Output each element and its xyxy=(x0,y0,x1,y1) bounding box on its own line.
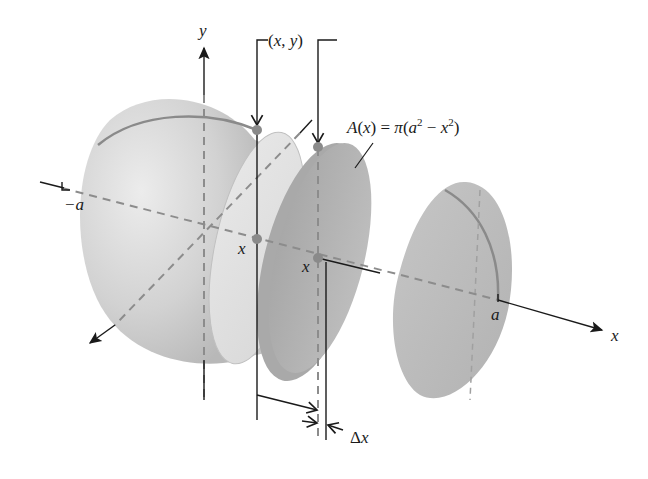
area-formula-label: A(x) = π(a2 − x2) xyxy=(346,116,459,137)
neg-a-label: −a xyxy=(64,195,84,214)
x-axis-right xyxy=(498,300,602,330)
z-axis-upper xyxy=(300,120,312,133)
delta-x-dimension xyxy=(257,395,343,430)
sphere-cap xyxy=(393,182,512,400)
x-mark-label-2: x xyxy=(301,257,310,276)
sphere-slicing-diagram: y x (x, y) A(x) = π(a2 − x2) −a a x x Δx xyxy=(0,0,648,479)
z-axis-arrow xyxy=(90,325,115,343)
y-axis-label: y xyxy=(197,21,207,40)
x-axis-label: x xyxy=(610,326,619,345)
x-axis-left xyxy=(40,182,64,188)
point-xy-label: (x, y) xyxy=(268,31,303,50)
delta-x-label: Δx xyxy=(350,428,369,447)
x-mark-label-1: x xyxy=(237,239,246,258)
pos-a-label: a xyxy=(491,305,500,324)
